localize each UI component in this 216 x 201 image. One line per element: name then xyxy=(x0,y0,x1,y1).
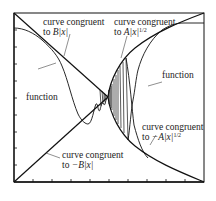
label-prefix: to xyxy=(43,27,53,37)
label-prefix: to xyxy=(62,160,72,170)
label-expr: −B|x| xyxy=(72,160,94,170)
label-prefix: to xyxy=(142,132,152,142)
label-curve-neg-b: curve congruent to −B|x| xyxy=(62,150,123,170)
label-line: curve congruent xyxy=(62,150,123,160)
label-curve-neg-a: curve congruent to −A|x|1/2 xyxy=(142,122,203,142)
label-exponent: 1/2 xyxy=(173,132,181,138)
label-curve-a: curve congruent to A|x|1/2 xyxy=(114,17,175,37)
label-curve-b: curve congruent to B|x| xyxy=(43,17,104,37)
label-line: curve congruent xyxy=(43,17,104,27)
label-line: curve congruent xyxy=(142,122,203,132)
center-oscillations xyxy=(100,58,128,140)
label-line: curve congruent xyxy=(114,17,175,27)
label-expr: B|x| xyxy=(53,27,68,37)
label-function-right: function xyxy=(162,70,194,80)
function-left-curve xyxy=(14,28,107,124)
label-exponent: 1/2 xyxy=(139,27,147,33)
label-prefix: to xyxy=(114,27,124,37)
label-expr: A|x| xyxy=(124,27,139,37)
label-expr: −A|x| xyxy=(152,132,174,142)
label-function-left: function xyxy=(26,92,58,102)
